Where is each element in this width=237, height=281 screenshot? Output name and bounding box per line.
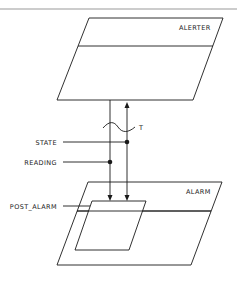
arrow-down-icon <box>108 195 113 201</box>
arrow-up-icon <box>125 102 130 108</box>
module-diagram: ALERTER ALARM T STATE READING POST_ALARM <box>0 0 237 281</box>
state-flow <box>125 102 130 201</box>
reading-label: READING <box>24 159 57 167</box>
timing-wave-icon <box>103 123 135 132</box>
alarm-label: ALARM <box>186 188 211 196</box>
timing-label: T <box>138 124 143 132</box>
state-label: STATE <box>35 139 57 147</box>
post-alarm-module[interactable] <box>75 201 146 250</box>
post-alarm-label: POST_ALARM <box>10 203 57 211</box>
alarm-module[interactable]: ALARM <box>57 182 222 265</box>
alerter-label: ALERTER <box>179 24 211 32</box>
alerter-module[interactable]: ALERTER <box>57 18 223 100</box>
reading-flow <box>108 100 113 201</box>
arrow-down-icon <box>125 195 130 201</box>
